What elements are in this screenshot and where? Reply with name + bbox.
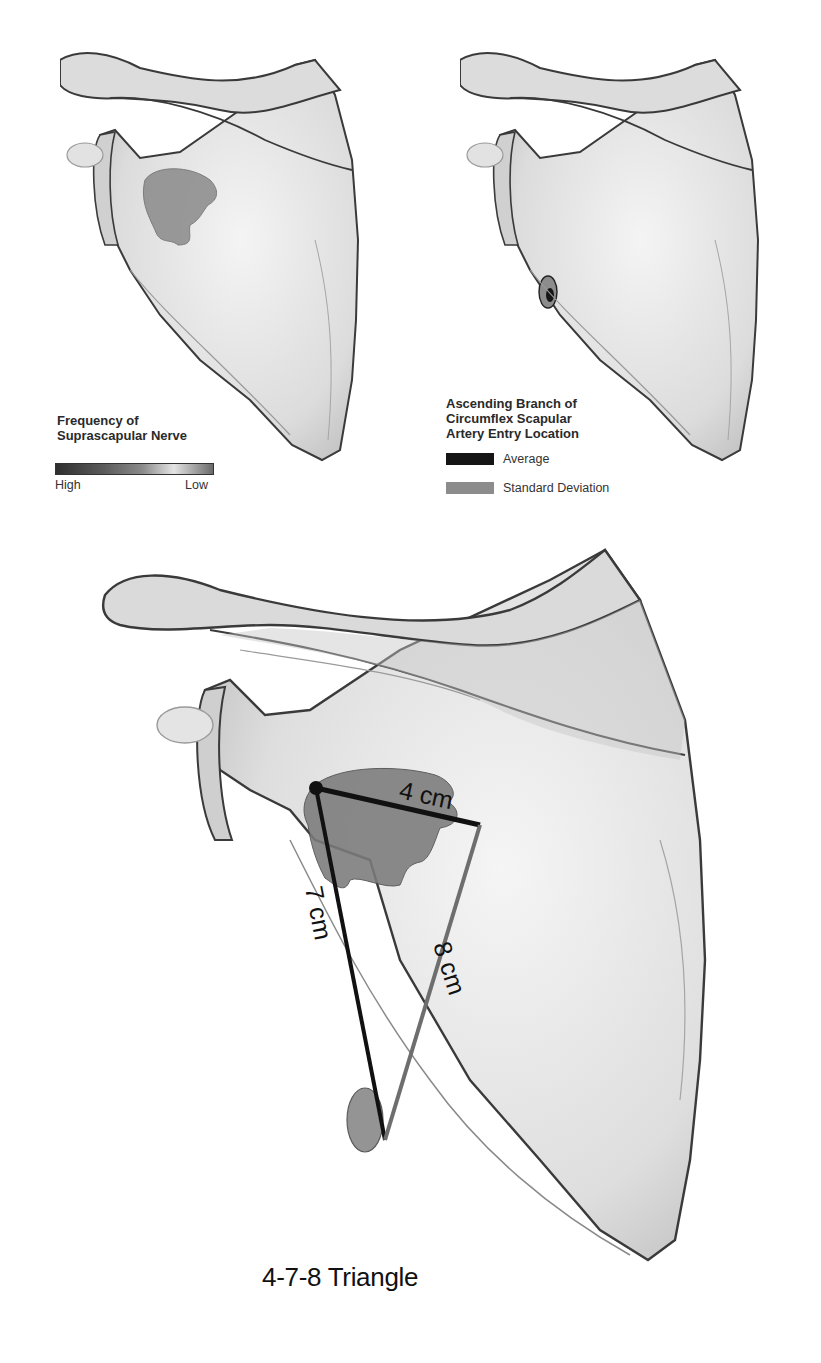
legend-label: Average	[503, 452, 549, 466]
triangle-vertex-marker	[309, 781, 323, 795]
scale-label-high: High	[55, 478, 81, 492]
figure-caption: 4-7-8 Triangle	[262, 1262, 418, 1293]
scale-label-low: Low	[185, 478, 208, 492]
legend-title-line: Artery Entry Location	[446, 426, 579, 441]
legend-title-line: Circumflex Scapular	[446, 411, 579, 426]
legend-item-average: Average	[446, 452, 549, 466]
measurement-7cm: 7 cm	[300, 884, 338, 943]
legend-item-std-dev: Standard Deviation	[446, 481, 609, 495]
legend-label: Standard Deviation	[503, 481, 609, 495]
legend-title-line: Ascending Branch of	[446, 396, 579, 411]
legend-title-nerve: Frequency of Suprascapular Nerve	[57, 413, 187, 443]
swatch-average	[446, 453, 494, 465]
legend-title-artery: Ascending Branch of Circumflex Scapular …	[446, 396, 579, 441]
scapula-illustration-triangle: 4 cm 7 cm 8 cm	[100, 540, 760, 1280]
legend-title-line: Frequency of	[57, 413, 187, 428]
legend-title-line: Suprascapular Nerve	[57, 428, 187, 443]
swatch-std-dev	[446, 482, 494, 494]
panel-478-triangle: 4 cm 7 cm 8 cm	[100, 540, 760, 1280]
frequency-gradient-scale	[55, 463, 214, 475]
